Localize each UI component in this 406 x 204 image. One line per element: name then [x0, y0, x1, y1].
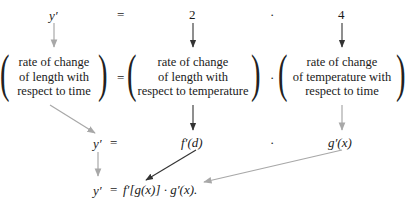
row1-yprime: y′ [49, 9, 58, 22]
row2-equals: = [117, 71, 124, 84]
box1-text: rate of change of length with respect to… [4, 55, 104, 99]
box1-line2: of length with [4, 70, 104, 85]
box3-line2: of temperature with [285, 70, 399, 85]
box2-line3: respect to temperature [133, 84, 253, 99]
row4-equals: = [110, 183, 117, 196]
box3-line3: respect to time [285, 84, 399, 99]
box3-right-paren: ) [396, 48, 406, 100]
row3-fprime-d: f′(d) [181, 136, 203, 149]
row3-yprime: y′ [93, 137, 102, 150]
box2-text: rate of change of length with respect to… [133, 55, 253, 99]
row1-factor-4: 4 [338, 8, 345, 21]
row1-factor-2: 2 [189, 8, 196, 21]
box3-text: rate of change of temperature with respe… [285, 55, 399, 99]
arrow-gprime-to-formula [204, 150, 342, 182]
row2-dot: · [270, 71, 274, 84]
arrows-layer [0, 0, 406, 204]
row1-equals: = [117, 8, 124, 21]
row4-yprime: y′ [93, 184, 102, 197]
box3-line1: rate of change [285, 55, 399, 70]
row3-equals: = [110, 136, 117, 149]
row3-gprime-x: g′(x) [328, 136, 352, 149]
row3-dot: · [270, 136, 274, 149]
box2-right-paren: ) [251, 48, 261, 100]
box2-line2: of length with [133, 70, 253, 85]
arrow-box1-to-yprime [50, 105, 95, 133]
row4-chain-rule-formula: f′[g(x)] · g′(x). [123, 183, 197, 196]
box2-line1: rate of change [133, 55, 253, 70]
box1-line1: rate of change [4, 55, 104, 70]
arrow-fprime-to-formula [146, 150, 196, 180]
box1-line3: respect to time [4, 84, 104, 99]
row1-dot: · [270, 8, 274, 21]
box1-right-paren: ) [98, 48, 108, 100]
